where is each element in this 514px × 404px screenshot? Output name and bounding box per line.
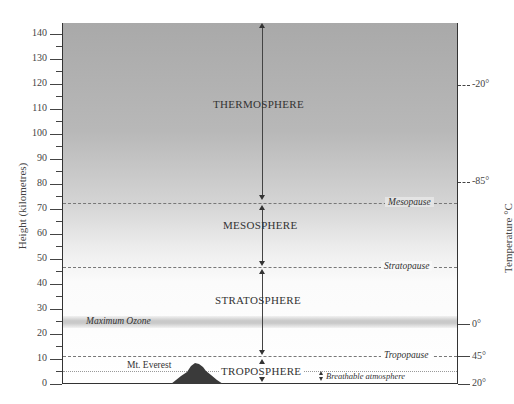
breathable-atmosphere-label: Breathable atmosphere xyxy=(326,371,405,381)
y-tick-label: 110 xyxy=(20,102,47,113)
y-tick-label: 10 xyxy=(20,352,47,363)
arrow-down-icon xyxy=(259,195,265,200)
temperature-axis-title: Temperature °C xyxy=(502,178,514,298)
y-tick xyxy=(50,159,62,160)
y-tick xyxy=(50,359,62,360)
y-tick-minor xyxy=(56,371,62,372)
tropopause-label: Tropopause xyxy=(381,350,432,360)
y-tick-minor xyxy=(56,146,62,147)
y-tick xyxy=(50,109,62,110)
thermosphere-extent-line xyxy=(262,27,263,197)
y-tick-label: 100 xyxy=(20,127,47,138)
y-tick xyxy=(50,384,62,385)
temp-label: 45° xyxy=(472,350,486,361)
stratosphere-extent-line xyxy=(262,271,263,351)
y-tick-minor xyxy=(56,196,62,197)
y-tick-minor xyxy=(56,246,62,247)
y-tick-label: 130 xyxy=(20,52,47,63)
y-tick-minor xyxy=(56,321,62,322)
arrow-up-icon xyxy=(259,23,265,28)
arrow-up-icon xyxy=(259,205,265,210)
arrow-up-icon xyxy=(259,269,265,274)
temp-tick xyxy=(458,182,470,183)
y-tick xyxy=(50,34,62,35)
y-tick xyxy=(50,284,62,285)
y-tick xyxy=(50,309,62,310)
arrow-up-icon xyxy=(319,371,323,375)
y-tick-label: 0 xyxy=(20,377,47,388)
y-tick-label: 30 xyxy=(20,302,47,313)
thermosphere-label: THERMOSPHERE xyxy=(213,98,304,110)
y-tick-minor xyxy=(56,171,62,172)
temp-tick xyxy=(458,384,470,385)
y-tick-minor xyxy=(56,71,62,72)
maximum-ozone-label: Maximum Ozone xyxy=(86,316,151,326)
temp-label: 0° xyxy=(472,318,481,329)
mesopause-label: Mesopause xyxy=(385,197,434,207)
y-tick xyxy=(50,334,62,335)
troposphere-label: TROPOSPHERE xyxy=(219,365,303,377)
mountain-icon xyxy=(171,362,231,384)
y-tick-minor xyxy=(56,96,62,97)
y-tick-label: 20 xyxy=(20,327,47,338)
stratopause-label: Stratopause xyxy=(381,261,432,271)
y-tick xyxy=(50,209,62,210)
y-tick xyxy=(50,134,62,135)
arrow-down-icon xyxy=(319,377,323,381)
mesosphere-extent-line xyxy=(262,207,263,263)
mesosphere-label: MESOSPHERE xyxy=(223,219,298,231)
y-tick xyxy=(50,234,62,235)
temp-label: 20° xyxy=(472,377,486,388)
arrow-down-icon xyxy=(259,350,265,355)
y-tick xyxy=(50,259,62,260)
temp-tick xyxy=(458,85,470,86)
temp-tick xyxy=(458,356,470,357)
y-tick-minor xyxy=(56,221,62,222)
stratosphere-label: STRATOSPHERE xyxy=(215,294,301,306)
y-tick-minor xyxy=(56,271,62,272)
y-tick-minor xyxy=(56,296,62,297)
temp-label: -85° xyxy=(472,175,489,186)
mt-everest-label: Mt. Everest xyxy=(125,360,173,370)
y-tick-minor xyxy=(56,346,62,347)
arrow-up-icon xyxy=(259,359,265,364)
atmosphere-plot-area: THERMOSPHERE MESOSPHERE STRATOSPHERE TRO… xyxy=(62,23,458,384)
height-axis-title: Height (kilometres) xyxy=(16,146,28,266)
y-tick-minor xyxy=(56,46,62,47)
arrow-down-icon xyxy=(259,261,265,266)
y-tick xyxy=(50,59,62,60)
arrow-down-icon xyxy=(259,377,265,382)
y-tick-label: 140 xyxy=(20,27,47,38)
temp-label: -20° xyxy=(472,78,489,89)
y-tick-minor xyxy=(56,121,62,122)
y-tick xyxy=(50,184,62,185)
y-tick-label: 40 xyxy=(20,277,47,288)
y-tick xyxy=(50,84,62,85)
temp-tick xyxy=(458,324,470,325)
y-tick-label: 120 xyxy=(20,77,47,88)
